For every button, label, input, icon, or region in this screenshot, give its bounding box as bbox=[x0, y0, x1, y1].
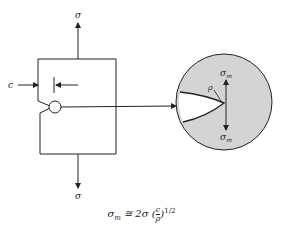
applied-stress-top-label: σ bbox=[75, 10, 82, 20]
applied-stress-bottom-label: σ bbox=[75, 191, 82, 201]
crack-tip-circle bbox=[49, 101, 61, 113]
magnify-leader-arrow bbox=[61, 106, 176, 107]
stress-concentration-equation: σm ≅ 2σ (cρ)1/2 bbox=[0, 206, 283, 223]
crack-notch bbox=[38, 101, 50, 113]
eq-relation: ≅ 2σ ( bbox=[121, 208, 156, 219]
crack-length-label: c bbox=[8, 80, 13, 90]
tip-radius-label: ρ bbox=[207, 83, 213, 92]
eq-exponent: 1/2 bbox=[164, 207, 175, 215]
eq-lhs-sub: m bbox=[114, 214, 121, 222]
